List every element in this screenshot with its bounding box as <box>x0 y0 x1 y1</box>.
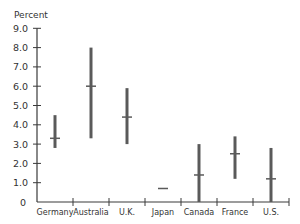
y-tick-label: 6.0 <box>13 81 28 92</box>
plot-area: 01.02.03.04.05.06.07.08.09.0GermanyAustr… <box>0 0 300 224</box>
x-tick-label: Canada <box>184 208 215 217</box>
range-chart: Percent 01.02.03.04.05.06.07.08.09.0Germ… <box>0 0 300 224</box>
y-axis-title: Percent <box>14 10 48 20</box>
x-tick-label: Japan <box>151 208 174 217</box>
y-tick-label: 0 <box>20 197 26 208</box>
y-tick-label: 4.0 <box>13 119 28 130</box>
y-tick-label: 8.0 <box>13 42 28 53</box>
x-tick-label: Germany <box>37 208 74 217</box>
x-tick-label: U.S. <box>263 208 279 217</box>
y-tick-label: 7.0 <box>13 61 28 72</box>
x-tick-label: France <box>222 208 249 217</box>
y-tick-label: 2.0 <box>13 158 28 169</box>
y-tick-label: 3.0 <box>13 139 28 150</box>
y-tick-label: 1.0 <box>13 177 28 188</box>
y-tick-label: 9.0 <box>13 23 28 34</box>
x-tick-label: Australia <box>73 208 108 217</box>
y-tick-label: 5.0 <box>13 100 28 111</box>
x-tick-label: U.K. <box>119 208 135 217</box>
